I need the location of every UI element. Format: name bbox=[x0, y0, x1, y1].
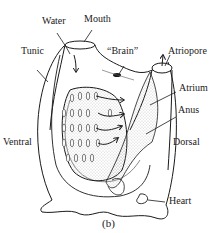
label-water: Water bbox=[42, 16, 66, 26]
mouth-siphon bbox=[65, 41, 95, 49]
heart bbox=[137, 194, 148, 204]
label-heart: Heart bbox=[169, 196, 191, 206]
label-tunic: Tunic bbox=[21, 46, 44, 56]
tunicate-diagram: Water Mouth Tunic “Brain” Atriopore Atri… bbox=[0, 0, 214, 233]
figure-caption: (b) bbox=[102, 218, 115, 229]
label-mouth: Mouth bbox=[84, 14, 111, 24]
label-dorsal: Dorsal bbox=[173, 137, 200, 147]
label-atriopore: Atriopore bbox=[168, 46, 207, 56]
label-atrium: Atrium bbox=[179, 83, 208, 93]
label-brain: “Brain” bbox=[107, 46, 138, 56]
label-ventral: Ventral bbox=[3, 137, 32, 147]
label-anus: Anus bbox=[178, 105, 199, 115]
